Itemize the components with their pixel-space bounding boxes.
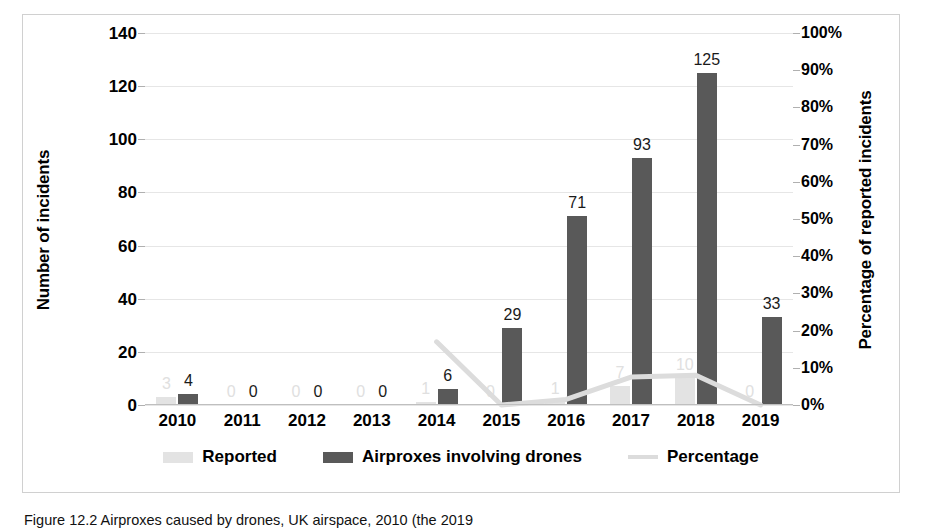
bar-label-reported: 0 xyxy=(745,383,754,401)
bar-label-airprox: 4 xyxy=(184,372,193,390)
y-axis-left-tick-label: 100 xyxy=(77,130,137,150)
x-axis-labels: 2010201120122013201420152016201720182019 xyxy=(145,411,793,437)
bar-label-airprox: 6 xyxy=(443,367,452,385)
bar-label-reported: 0 xyxy=(486,383,495,401)
y-axis-right-tick-label: 40% xyxy=(801,247,863,265)
y-axis-right-tick-mark xyxy=(793,107,800,108)
y-axis-left-tick-label: 80 xyxy=(77,183,137,203)
bar-group: 34 xyxy=(145,33,210,405)
y-axis-left-tick-mark xyxy=(138,352,145,353)
bar-group: 029 xyxy=(469,33,534,405)
y-axis-right-tick-mark xyxy=(793,405,800,406)
y-axis-right-tick-label: 30% xyxy=(801,284,863,302)
bar-label-reported: 1 xyxy=(421,380,430,398)
bar-reported[interactable] xyxy=(675,378,695,405)
bar-label-reported: 1 xyxy=(551,380,560,398)
x-axis-tick-label: 2019 xyxy=(742,411,780,431)
y-axis-left-tick-mark xyxy=(138,33,145,34)
y-axis-left-tick-mark xyxy=(138,405,145,406)
y-axis-left-tick-label: 20 xyxy=(77,343,137,363)
bar-label-reported: 0 xyxy=(227,383,236,401)
y-axis-right-tick-label: 70% xyxy=(801,136,863,154)
legend-bar-swatch-icon xyxy=(323,452,353,463)
gridline xyxy=(145,405,793,406)
bar-group: 033 xyxy=(728,33,793,405)
legend-label: Reported xyxy=(202,447,277,467)
bar-label-airprox: 93 xyxy=(633,136,651,154)
bar-label-reported: 0 xyxy=(292,383,301,401)
bar-airprox[interactable] xyxy=(567,216,587,405)
bar-label-airprox: 29 xyxy=(503,306,521,324)
x-axis-tick-label: 2017 xyxy=(612,411,650,431)
bar-group: 00 xyxy=(210,33,275,405)
x-axis-tick-label: 2012 xyxy=(288,411,326,431)
y-axis-left-tick-mark xyxy=(138,192,145,193)
x-axis-baseline xyxy=(145,404,793,405)
y-axis-right-tick-label: 80% xyxy=(801,98,863,116)
bar-group: 171 xyxy=(534,33,599,405)
y-axis-right-tick-mark xyxy=(793,293,800,294)
y-axis-right-tick-label: 100% xyxy=(801,24,863,42)
bar-label-reported: 10 xyxy=(676,356,694,374)
bar-label-airprox: 71 xyxy=(568,194,586,212)
bar-label-airprox: 125 xyxy=(693,51,720,69)
y-axis-right-tick-mark xyxy=(793,182,800,183)
bar-group: 16 xyxy=(404,33,469,405)
bar-reported[interactable] xyxy=(610,386,630,405)
y-axis-left-tick-mark xyxy=(138,299,145,300)
y-axis-right-tick-label: 20% xyxy=(801,322,863,340)
x-axis-tick-label: 2015 xyxy=(482,411,520,431)
chart-container: Number of incidents Percentage of report… xyxy=(22,14,900,493)
bar-group: 00 xyxy=(339,33,404,405)
bar-airprox[interactable] xyxy=(697,73,717,405)
legend-bar-swatch-icon xyxy=(163,452,193,463)
y-axis-right-tick-label: 60% xyxy=(801,173,863,191)
x-axis-tick-label: 2013 xyxy=(353,411,391,431)
y-axis-right-tick-mark xyxy=(793,256,800,257)
bar-label-reported: 7 xyxy=(616,364,625,382)
y-axis-right-tick-mark xyxy=(793,70,800,71)
y-axis-left-tick-label: 120 xyxy=(77,77,137,97)
x-axis-tick-label: 2018 xyxy=(677,411,715,431)
figure-caption: Figure 12.2 Airproxes caused by drones, … xyxy=(24,512,924,529)
bar-label-reported: 3 xyxy=(162,375,171,393)
bar-airprox[interactable] xyxy=(438,389,458,405)
y-axis-right-tick-label: 10% xyxy=(801,359,863,377)
y-axis-right-tick-mark xyxy=(793,368,800,369)
bar-airprox[interactable] xyxy=(502,328,522,405)
x-axis-tick-label: 2010 xyxy=(158,411,196,431)
y-axis-right-tick-label: 50% xyxy=(801,210,863,228)
bar-label-airprox: 33 xyxy=(763,295,781,313)
y-axis-right-tick-label: 0% xyxy=(801,396,863,414)
bar-label-airprox: 0 xyxy=(378,383,387,401)
legend-item[interactable]: Reported xyxy=(163,447,277,467)
legend-label: Percentage xyxy=(667,447,759,467)
bar-label-airprox: 0 xyxy=(249,383,258,401)
bar-label-reported: 0 xyxy=(356,383,365,401)
bar-airprox[interactable] xyxy=(762,317,782,405)
y-axis-right-tick-mark xyxy=(793,33,800,34)
plot-area: 020406080100120140 0%10%20%30%40%50%60%7… xyxy=(145,33,793,405)
y-axis-left-title: Number of incidents xyxy=(34,105,54,355)
y-axis-right-tick-label: 90% xyxy=(801,61,863,79)
y-axis-left-tick-mark xyxy=(138,139,145,140)
legend-item[interactable]: Percentage xyxy=(628,447,759,467)
y-axis-left-tick-label: 140 xyxy=(77,24,137,44)
y-axis-right-tick-mark xyxy=(793,331,800,332)
x-axis-tick-label: 2011 xyxy=(224,411,261,431)
bar-label-airprox: 0 xyxy=(314,383,323,401)
x-axis-tick-label: 2014 xyxy=(418,411,456,431)
y-axis-left-tick-label: 60 xyxy=(77,237,137,257)
y-axis-right-tick-mark xyxy=(793,219,800,220)
legend-item[interactable]: Airproxes involving drones xyxy=(323,447,582,467)
x-axis-tick-label: 2016 xyxy=(547,411,585,431)
y-axis-left-tick-label: 40 xyxy=(77,290,137,310)
bar-airprox[interactable] xyxy=(632,158,652,405)
y-axis-right-tick-mark xyxy=(793,145,800,146)
y-axis-left-tick-mark xyxy=(138,246,145,247)
bar-group: 00 xyxy=(275,33,340,405)
bar-group: 10125 xyxy=(663,33,728,405)
chart-legend: ReportedAirproxes involving dronesPercen… xyxy=(23,447,899,467)
bar-group: 793 xyxy=(599,33,664,405)
y-axis-left-tick-label: 0 xyxy=(77,396,137,416)
